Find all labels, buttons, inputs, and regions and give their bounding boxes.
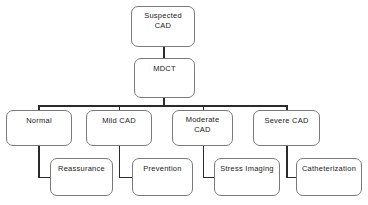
node-mdct[interactable]: MDCT (134, 58, 195, 98)
node-prevention-label: Prevention (143, 159, 181, 195)
node-moderate-cad[interactable]: Moderate CAD (172, 110, 233, 146)
node-moderate-cad-label: Moderate CAD (186, 111, 220, 145)
node-reassurance-label: Reassurance (58, 159, 105, 195)
node-mild-cad-label: Mild CAD (102, 111, 136, 145)
node-suspected-cad[interactable]: Suspected CAD (131, 6, 195, 47)
node-stress-imaging-label: Stress Imaging (220, 159, 274, 195)
flowchart-canvas: Suspected CAD MDCT Normal Mild CAD Moder… (0, 0, 368, 205)
node-catheterization-label: Catheterization (302, 159, 356, 195)
connector-moderate-to-stress-imaging-vertical (203, 146, 205, 178)
node-prevention[interactable]: Prevention (132, 158, 193, 196)
node-catheterization[interactable]: Catheterization (296, 158, 362, 196)
node-severe-cad[interactable]: Severe CAD (253, 110, 320, 146)
node-suspected-cad-label: Suspected CAD (144, 7, 182, 46)
node-stress-imaging[interactable]: Stress Imaging (214, 158, 280, 196)
connector-mild-to-prevention-horizontal (119, 177, 133, 179)
node-reassurance[interactable]: Reassurance (50, 158, 113, 196)
connector-bus-horizontal (38, 105, 288, 107)
node-severe-cad-label: Severe CAD (264, 111, 308, 145)
node-normal[interactable]: Normal (6, 110, 72, 146)
node-mild-cad[interactable]: Mild CAD (86, 110, 152, 146)
connector-mild-to-prevention-vertical (119, 146, 121, 178)
connector-normal-to-reassurance-vertical (38, 146, 40, 178)
node-normal-label: Normal (26, 111, 52, 145)
node-mdct-label: MDCT (153, 59, 176, 97)
connector-severe-to-catheterization-vertical (286, 146, 288, 178)
connector-moderate-to-stress-imaging-horizontal (203, 177, 215, 179)
